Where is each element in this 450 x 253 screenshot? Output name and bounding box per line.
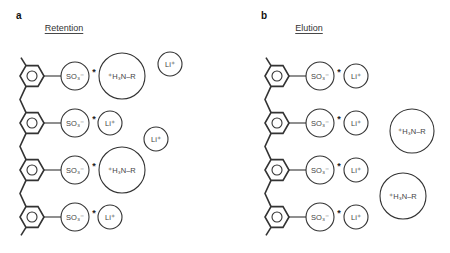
aromatic-circle [27,71,37,81]
sulfonate-group: SO₃⁻ [306,156,334,184]
polymer-backbone [265,180,271,206]
lithium-label: Li⁺ [105,213,115,222]
sulfonate-group: SO₃⁻ [61,156,89,184]
benzene-ring-icon [20,66,44,87]
panel-title: Elution [295,23,323,33]
ion-pair-marker: * [92,161,96,171]
lithium-label: Li⁺ [351,213,361,222]
amine-label: ⁺H₃N–R [398,127,426,136]
lithium-label: Li⁺ [105,119,115,128]
benzene-ring-icon [20,160,44,181]
ion-pair-marker: * [337,114,341,124]
lithium-label: Li⁺ [165,60,175,69]
resin-unit: SO₃⁻*Li⁺ [265,203,368,235]
lithium-ion: Li⁺ [344,64,368,88]
sulfonate-group: SO₃⁻ [306,203,334,231]
amine-cation: ⁺H₃N–R [390,109,434,153]
resin-unit: SO₃⁻*Li⁺ [265,109,368,160]
aromatic-circle [27,165,37,175]
aromatic-circle [272,165,282,175]
sulfonate-group: SO₃⁻ [61,109,89,137]
panel-letter: b [261,10,267,21]
ion-pair-marker: * [92,67,96,77]
lithium-label: Li⁺ [351,72,361,81]
lithium-label: Li⁺ [351,166,361,175]
amine-label: ⁺H₃N–R [108,166,136,175]
sulfonate-label: SO₃⁻ [66,72,84,81]
resin-unit: SO₃⁻*Li⁺ [20,203,122,235]
resin-unit: SO₃⁻*Li⁺ [20,109,122,160]
ion-pair-marker: * [337,161,341,171]
amine-cation: ⁺H₃N–R [380,173,426,219]
polymer-backbone [20,180,26,206]
benzene-ring-icon [20,113,44,134]
ion-pair-marker: * [337,67,341,77]
lithium-ion: Li⁺ [344,111,368,135]
ion-pair-marker: * [92,114,96,124]
panel-letter: a [16,10,22,21]
lithium-ion: Li⁺ [344,158,368,182]
benzene-ring-icon [20,207,44,228]
amine-label: ⁺H₃N–R [108,72,136,81]
resin-unit: SO₃⁻*Li⁺ [265,58,368,113]
polymer-chain-end [21,58,26,66]
sulfonate-label: SO₃⁻ [311,72,329,81]
lithium-ion: Li⁺ [98,111,122,135]
polymer-backbone [20,133,26,159]
panel-a: aRetentionSO₃⁻*⁺H₃N–RSO₃⁻*Li⁺SO₃⁻*⁺H₃N–R… [16,10,182,236]
aromatic-circle [272,118,282,128]
panel-title: Retention [45,23,84,33]
polymer-chain-end [266,58,271,66]
polymer-chain-end [21,227,26,235]
resin-unit: SO₃⁻*Li⁺ [265,156,368,207]
lithium-ion: Li⁺ [344,205,368,229]
aromatic-circle [27,118,37,128]
sulfonate-group: SO₃⁻ [306,109,334,137]
sulfonate-label: SO₃⁻ [66,213,84,222]
lithium-label: Li⁺ [351,119,361,128]
polymer-chain-end [266,227,271,235]
ion-pair-marker: * [337,208,341,218]
sulfonate-group: SO₃⁻ [306,62,334,90]
benzene-ring-icon [265,113,289,134]
ion-exchange-diagram: aRetentionSO₃⁻*⁺H₃N–RSO₃⁻*Li⁺SO₃⁻*⁺H₃N–R… [0,0,450,253]
aromatic-circle [272,212,282,222]
sulfonate-label: SO₃⁻ [311,166,329,175]
amine-cation: ⁺H₃N–R [99,147,145,193]
lithium-ion: Li⁺ [158,52,182,76]
ion-pair-marker: * [92,208,96,218]
benzene-ring-icon [265,66,289,87]
sulfonate-group: SO₃⁻ [61,62,89,90]
amine-label: ⁺H₃N–R [389,192,417,201]
lithium-ion: Li⁺ [144,127,168,151]
sulfonate-label: SO₃⁻ [311,119,329,128]
sulfonate-label: SO₃⁻ [66,166,84,175]
panel-b: bElutionSO₃⁻*Li⁺SO₃⁻*Li⁺SO₃⁻*Li⁺SO₃⁻*Li⁺… [261,10,434,236]
sulfonate-group: SO₃⁻ [61,203,89,231]
sulfonate-label: SO₃⁻ [66,119,84,128]
amine-cation: ⁺H₃N–R [99,53,145,99]
benzene-ring-icon [265,207,289,228]
lithium-label: Li⁺ [151,135,161,144]
benzene-ring-icon [265,160,289,181]
polymer-backbone [20,86,26,112]
lithium-ion: Li⁺ [98,205,122,229]
sulfonate-label: SO₃⁻ [311,213,329,222]
resin-unit: SO₃⁻*⁺H₃N–R [20,147,145,207]
polymer-backbone [265,133,271,159]
resin-unit: SO₃⁻*⁺H₃N–R [20,53,145,113]
polymer-backbone [265,86,271,112]
aromatic-circle [27,212,37,222]
aromatic-circle [272,71,282,81]
